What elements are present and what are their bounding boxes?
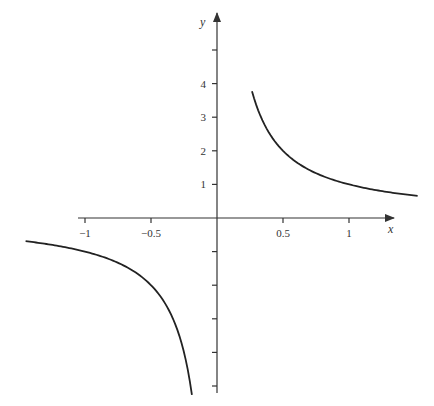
y-tick-label: 4: [201, 78, 207, 90]
curve-right-branch: [252, 91, 418, 196]
axes: [78, 13, 394, 393]
y-tick-label: 3: [201, 111, 207, 123]
hyperbola-plot: −1−0.50.511234 x y: [0, 0, 434, 406]
curves: [26, 91, 418, 395]
x-tick-label: −1: [79, 227, 91, 239]
y-axis-label: y: [199, 15, 206, 29]
tick-labels: −1−0.50.511234: [79, 78, 352, 239]
x-tick-label: 1: [346, 227, 352, 239]
y-tick-label: 1: [201, 178, 207, 190]
curve-left-branch: [26, 241, 192, 395]
x-axis-label: x: [387, 222, 394, 236]
x-tick-label: 0.5: [276, 227, 290, 239]
y-tick-label: 2: [201, 145, 207, 157]
x-tick-label: −0.5: [141, 227, 161, 239]
